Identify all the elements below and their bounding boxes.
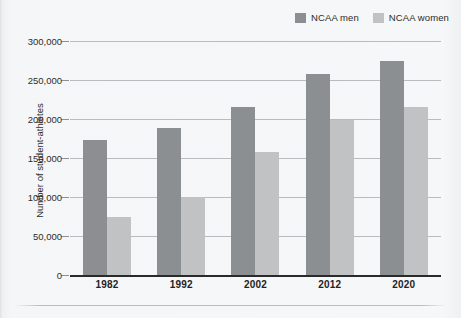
bar-ncaa-men-2020	[380, 61, 404, 276]
y-axis-title: Number of student-athletes	[34, 76, 45, 246]
bar-ncaa-men-2002	[231, 107, 255, 275]
x-axis-tick-label: 1992	[157, 279, 205, 290]
y-axis-tick-label: 300,000	[8, 36, 62, 47]
bar-ncaa-women-2020	[404, 107, 428, 275]
bar-ncaa-women-2012	[330, 120, 354, 275]
footer-divider	[14, 305, 447, 306]
x-axis-tick-label: 2020	[380, 279, 428, 290]
x-axis-labels: 19821992200220122020	[70, 279, 441, 290]
y-axis-tick-mark	[61, 236, 69, 237]
y-axis-tick-mark	[61, 275, 69, 276]
bar-ncaa-women-1982	[107, 217, 131, 276]
bar-ncaa-women-1992	[181, 197, 205, 275]
x-axis-tick-label: 2002	[231, 279, 279, 290]
y-axis-tick-mark	[61, 158, 69, 159]
x-axis-line	[70, 275, 441, 277]
bar-ncaa-men-2012	[306, 74, 330, 275]
bar-group	[231, 41, 279, 275]
bar-ncaa-women-2002	[255, 152, 279, 275]
y-axis-tick-mark	[61, 119, 69, 120]
y-axis-tick-mark	[61, 80, 69, 81]
bar-group	[157, 41, 205, 275]
bar-group	[380, 41, 428, 275]
bar-ncaa-men-1992	[157, 128, 181, 275]
y-axis-tick-mark	[61, 197, 69, 198]
bar-ncaa-men-1982	[83, 140, 107, 275]
x-axis-tick-label: 2012	[306, 279, 354, 290]
bar-groups	[70, 41, 441, 275]
bar-group	[83, 41, 131, 275]
x-axis-tick-label: 1982	[83, 279, 131, 290]
y-axis-tick-label: 0	[8, 270, 62, 281]
bar-chart: 050,000100,000150,000200,000250,000300,0…	[0, 0, 461, 318]
bar-group	[306, 41, 354, 275]
y-axis-tick-mark	[61, 41, 69, 42]
